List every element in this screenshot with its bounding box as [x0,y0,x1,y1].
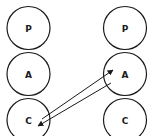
right-child-state: C [104,99,147,137]
right-adult-label: A [122,70,129,80]
left-child-label: C [25,116,32,126]
ego-state-diagram: P A C P A C [0,0,149,136]
right-person-column: P A C [104,7,147,137]
left-adult-state: A [7,53,50,96]
right-adult-state: A [104,53,147,96]
right-parent-label: P [122,24,129,34]
transaction-arrow-adult-to-child [38,83,111,126]
transaction-arrow-child-to-adult [42,70,113,119]
right-child-label: C [122,116,129,126]
right-parent-state: P [104,7,147,50]
left-parent-label: P [25,24,32,34]
left-child-state: C [7,99,50,137]
left-adult-label: A [25,70,32,80]
left-parent-state: P [7,7,50,50]
left-person-column: P A C [7,7,50,137]
